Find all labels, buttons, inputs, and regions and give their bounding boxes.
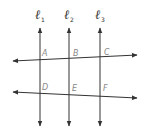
label-l3: ℓ 3 [95, 7, 105, 23]
label-l2: ℓ 2 [64, 7, 74, 23]
parallel-lines-diagram: ℓ 1 ℓ 2 ℓ 3 A B C D E F [0, 0, 144, 130]
svg-text:3: 3 [101, 16, 105, 23]
point-f-label: F [103, 84, 108, 93]
point-e-label: E [72, 84, 78, 93]
point-d-label: D [42, 83, 48, 92]
point-c-label: C [104, 48, 110, 57]
label-l1: ℓ 1 [35, 7, 45, 23]
svg-text:1: 1 [41, 16, 45, 23]
svg-text:2: 2 [70, 16, 74, 23]
point-a-label: A [41, 49, 47, 58]
point-b-label: B [73, 49, 79, 58]
